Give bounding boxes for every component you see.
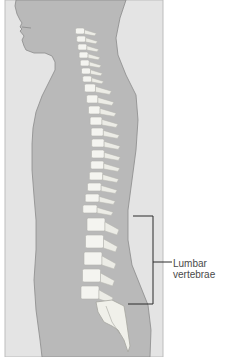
spine-diagram [0,0,225,357]
cervical-vertebra [77,36,86,42]
thoracic-vertebra [89,106,101,114]
cervical-vertebra [79,52,88,58]
thoracic-vertebra [91,128,103,136]
thoracic-vertebra [85,84,96,92]
cervical-vertebra [80,60,89,66]
thoracic-vertebra [89,172,102,180]
thoracic-vertebra [92,150,105,158]
label-line-2: vertebrae [173,269,215,280]
cervical-vertebra [76,28,85,34]
thoracic-vertebra [85,194,99,202]
lumbar-vertebra [81,286,99,299]
lumbar-vertebra [84,252,102,265]
label-line-1: Lumbar [173,258,215,269]
cervical-vertebra [78,44,87,50]
lumbar-vertebra [83,269,101,282]
lumbar-vertebra [87,218,105,231]
cervical-vertebra [83,76,92,82]
thoracic-vertebra [92,139,105,147]
cervical-vertebra [82,68,91,74]
thoracic-vertebra [87,183,101,191]
thoracic-vertebra [91,161,104,169]
lumbar-vertebrae-label: Lumbar vertebrae [173,258,215,280]
thoracic-vertebra [83,205,97,213]
thoracic-vertebra [87,95,98,103]
lumbar-vertebra [86,235,104,248]
thoracic-vertebra [90,117,102,125]
